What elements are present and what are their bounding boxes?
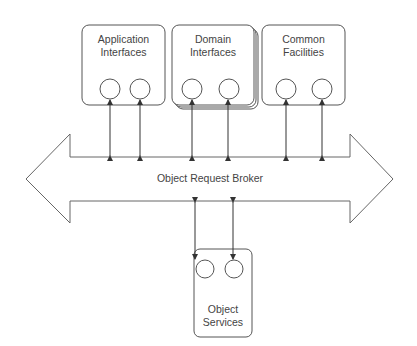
interface-port-icon <box>182 79 202 99</box>
object-request-broker-label: Object Request Broker <box>70 172 350 185</box>
interface-port-icon <box>225 260 243 278</box>
interface-port-icon <box>100 79 120 99</box>
label-line: Services <box>194 316 252 329</box>
interface-port-icon <box>276 79 296 99</box>
interface-port-icon <box>130 79 150 99</box>
label-line: Domain <box>172 33 254 46</box>
common-facilities-label: Common Facilities <box>262 33 345 59</box>
application-interfaces-label: Application Interfaces <box>82 33 165 59</box>
label-line: Object <box>194 303 252 316</box>
label-line: Application <box>82 33 165 46</box>
domain-interfaces-label: Domain Interfaces <box>172 33 254 59</box>
label-line: Facilities <box>262 46 345 59</box>
interface-port-icon <box>312 79 332 99</box>
label-line: Interfaces <box>172 46 254 59</box>
interface-port-icon <box>196 260 214 278</box>
object-services-label: Object Services <box>194 303 252 329</box>
label-line: Interfaces <box>82 46 165 59</box>
interface-port-icon <box>219 79 239 99</box>
label-line: Common <box>262 33 345 46</box>
